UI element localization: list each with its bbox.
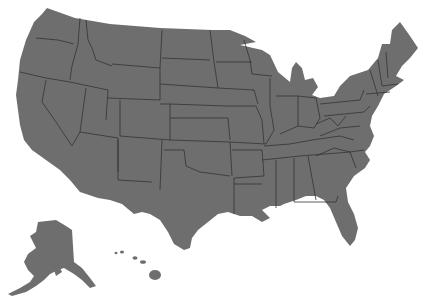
alaska [8, 220, 96, 296]
us-map [0, 0, 427, 300]
contiguous-us [16, 8, 418, 250]
hawaii [115, 251, 162, 281]
